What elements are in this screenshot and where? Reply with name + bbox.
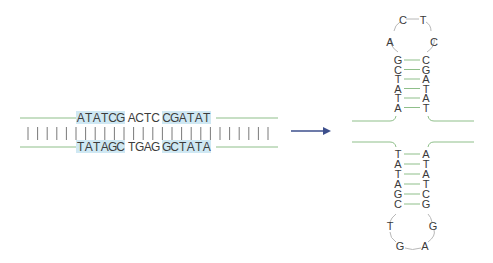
top-strand-base: A bbox=[179, 111, 188, 125]
loop-base: G bbox=[429, 220, 438, 232]
stem-base-right: G bbox=[422, 198, 431, 210]
loop-base: A bbox=[386, 36, 394, 48]
loop-base: C bbox=[430, 36, 438, 48]
top-strand-base: C bbox=[151, 111, 160, 125]
top-strand-base: A bbox=[195, 111, 204, 125]
top-loop-line bbox=[391, 19, 435, 52]
top-strand-base: G bbox=[116, 111, 126, 125]
bottom-strand-base: G bbox=[151, 140, 161, 154]
bottom-left-strand-line bbox=[352, 142, 396, 147]
bottom-right-strand-line bbox=[428, 142, 474, 147]
bottom-strand-base: A bbox=[203, 140, 212, 154]
stem-base-left: A bbox=[394, 102, 402, 114]
top-strand-base: A bbox=[93, 111, 102, 125]
bottom-strand-base: A bbox=[85, 140, 94, 154]
dna-duplex: ATATCGACTCCGATAT TATAGCTGAGGCTATA bbox=[20, 111, 278, 154]
loop-base: A bbox=[421, 240, 429, 252]
stem-base-left: C bbox=[394, 198, 402, 210]
loop-base: T bbox=[420, 14, 427, 26]
top-strand-base: T bbox=[203, 111, 211, 125]
bottom-strand-sequence: TATAGCTGAGGCTATA bbox=[77, 140, 211, 154]
bottom-hairpin-bases: TAATTAATGCCGTGAG bbox=[387, 148, 438, 252]
hairpin-bottom: TAATTAATGCCGTGAG bbox=[352, 142, 474, 252]
loop-base: T bbox=[387, 220, 394, 232]
loop-base: C bbox=[399, 14, 407, 26]
top-left-strand-line bbox=[352, 116, 396, 121]
bottom-strand-base: C bbox=[116, 140, 125, 154]
top-right-strand-line bbox=[428, 116, 474, 121]
stem-base-right: T bbox=[423, 102, 430, 114]
bottom-strand-base: A bbox=[187, 140, 196, 154]
top-strand-base: A bbox=[77, 111, 86, 125]
right-arrow-icon bbox=[291, 127, 331, 135]
loop-base: G bbox=[396, 240, 405, 252]
top-strand-sequence: ATATCGACTCCGATAT bbox=[77, 111, 211, 125]
pairing-bars bbox=[28, 127, 268, 140]
hairpin-top: ACTCGCCGTAATTAAT bbox=[352, 14, 474, 121]
dna-hairpin-diagram: ATATCGACTCCGATAT TATAGCTGAGGCTATA ACTCGC… bbox=[0, 0, 493, 263]
